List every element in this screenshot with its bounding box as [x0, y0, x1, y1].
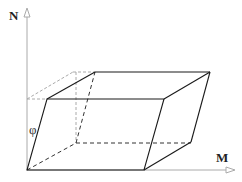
m-axis-label: M [216, 150, 228, 165]
m-axis-arrow-icon [226, 167, 235, 173]
angle-phi-label: φ [29, 122, 37, 137]
n-axis-arrow-icon [24, 8, 30, 17]
parallelepiped-diagram: N M φ [0, 0, 242, 182]
axes [24, 8, 235, 173]
hidden-edges [27, 72, 191, 170]
n-axis-label: N [9, 8, 19, 23]
